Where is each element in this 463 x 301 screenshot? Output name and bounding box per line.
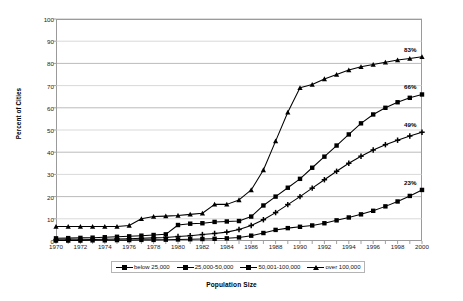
series-over-100-000	[53, 54, 424, 229]
legend-label: below 25,000	[134, 264, 170, 270]
data-point-marker	[115, 235, 119, 239]
data-point-marker	[273, 210, 278, 215]
data-point-marker	[347, 132, 351, 136]
data-point-marker	[54, 236, 58, 240]
data-point-marker	[334, 143, 338, 147]
data-point-marker	[212, 237, 216, 241]
data-point-marker	[322, 154, 326, 158]
legend-item[interactable]: over 100,000	[307, 263, 360, 271]
series-endpoint-label: 66%	[404, 83, 416, 90]
data-point-marker	[285, 202, 290, 207]
data-point-marker	[249, 233, 253, 237]
data-point-marker	[66, 236, 70, 240]
data-point-marker	[224, 229, 229, 234]
data-point-marker	[188, 221, 192, 225]
series-50-001-100-000	[54, 92, 424, 240]
data-point-marker	[395, 199, 399, 203]
legend-item[interactable]: 25,000-50,000	[177, 263, 234, 271]
data-point-marker	[286, 186, 290, 190]
data-point-marker	[90, 235, 94, 239]
legend-label: 50,001-100,000	[258, 264, 300, 270]
data-point-marker	[261, 231, 265, 235]
legend-marker-icon	[116, 263, 133, 271]
data-point-marker	[383, 106, 387, 110]
data-point-marker	[151, 233, 155, 237]
data-point-marker	[310, 82, 315, 87]
data-point-marker	[383, 142, 388, 147]
legend-label: over 100,000	[325, 264, 360, 270]
legend-item[interactable]: below 25,000	[116, 263, 170, 271]
chart-legend: below 25,00025,000-50,00050,001-100,000o…	[111, 261, 365, 273]
data-point-marker	[103, 235, 107, 239]
data-point-marker	[237, 219, 241, 223]
data-point-marker	[285, 110, 290, 115]
series-endpoint-label: 49%	[404, 121, 416, 128]
legend-marker-icon	[177, 263, 194, 271]
data-point-marker	[225, 219, 229, 223]
data-point-marker	[286, 226, 290, 230]
data-point-marker	[334, 218, 338, 222]
data-point-marker	[358, 153, 363, 158]
data-point-marker	[298, 225, 302, 229]
data-point-marker	[395, 100, 399, 104]
data-point-marker	[359, 121, 363, 125]
data-point-marker	[395, 138, 400, 143]
data-point-marker	[298, 177, 302, 181]
data-point-marker	[347, 215, 351, 219]
series-line	[56, 94, 422, 238]
legend-marker-icon	[307, 263, 324, 271]
data-point-marker	[383, 204, 387, 208]
data-point-marker	[225, 236, 229, 240]
data-point-marker	[310, 166, 314, 170]
data-point-marker	[408, 96, 412, 100]
data-point-marker	[139, 233, 143, 237]
data-point-marker	[371, 112, 375, 116]
data-point-marker	[164, 232, 168, 236]
data-point-marker	[359, 212, 363, 216]
series-canvas	[0, 0, 463, 301]
data-point-marker	[78, 236, 82, 240]
legend-item[interactable]: 50,001-100,000	[240, 263, 300, 271]
data-point-marker	[273, 194, 277, 198]
data-point-marker	[261, 217, 266, 222]
data-point-marker	[407, 133, 412, 138]
data-point-marker	[127, 234, 131, 238]
legend-marker-icon	[240, 263, 257, 271]
data-point-marker	[200, 221, 204, 225]
series-below-25-000	[54, 188, 424, 243]
data-point-marker	[249, 223, 254, 228]
data-point-marker	[212, 231, 217, 236]
data-point-marker	[346, 161, 351, 166]
data-point-marker	[261, 167, 266, 172]
series-25-000-50-000	[53, 130, 424, 243]
data-point-marker	[176, 223, 180, 227]
data-point-marker	[200, 232, 205, 237]
data-point-marker	[408, 194, 412, 198]
series-endpoint-label: 83%	[404, 46, 416, 53]
data-point-marker	[273, 228, 277, 232]
data-point-marker	[322, 221, 326, 225]
data-point-marker	[236, 227, 241, 232]
data-point-marker	[261, 203, 265, 207]
data-point-marker	[273, 139, 278, 144]
data-point-marker	[200, 237, 204, 241]
data-point-marker	[420, 188, 424, 192]
series-line	[56, 132, 422, 240]
series-endpoint-label: 23%	[404, 179, 416, 186]
legend-label: 25,000-50,000	[195, 264, 234, 270]
chart-root: 0102030405060708090100 Percent of Cities…	[0, 0, 463, 301]
data-point-marker	[237, 235, 241, 239]
data-point-marker	[371, 209, 375, 213]
data-point-marker	[249, 187, 254, 192]
data-point-marker	[420, 92, 424, 96]
data-point-marker	[249, 214, 253, 218]
data-point-marker	[212, 220, 216, 224]
data-point-marker	[310, 223, 314, 227]
